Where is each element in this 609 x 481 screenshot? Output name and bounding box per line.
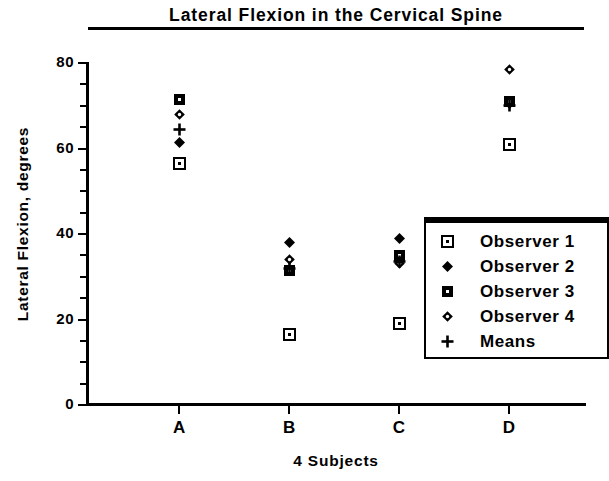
marker-glyph [441, 310, 454, 323]
marker-glyph [441, 260, 454, 273]
legend-item-label: Observer 1 [480, 232, 575, 252]
y-tick-minor [80, 276, 86, 278]
data-point [503, 63, 516, 76]
legend-item: Observer 2 [426, 254, 607, 279]
data-point [503, 99, 516, 112]
data-point [283, 262, 296, 275]
marker-glyph [441, 335, 454, 348]
data-point [283, 328, 296, 341]
data-point [173, 93, 186, 106]
y-tick-minor [80, 340, 86, 342]
legend-item: Observer 1 [426, 229, 607, 254]
legend-item: Means [426, 329, 607, 354]
y-tick-label: 20 [30, 310, 74, 327]
y-tick-minor [80, 190, 86, 192]
y-tick-minor [80, 83, 86, 85]
chart-title-block: Lateral Flexion in the Cervical Spine [88, 4, 584, 30]
marker-glyph [441, 285, 454, 298]
legend-marker-icon [438, 334, 458, 350]
y-tick-label: 40 [30, 224, 74, 241]
legend-item: Observer 4 [426, 304, 607, 329]
y-tick-minor [80, 297, 86, 299]
data-point [393, 317, 406, 330]
y-axis-line [86, 62, 89, 406]
legend-item: Observer 3 [426, 279, 607, 304]
chart-legend: Observer 1Observer 2Observer 3Observer 4… [424, 217, 609, 359]
y-tick-minor [80, 383, 86, 385]
legend-marker-icon [438, 284, 458, 300]
x-axis-label: 4 Subjects [86, 452, 586, 470]
legend-item-label: Means [480, 332, 536, 352]
y-tick-minor [80, 105, 86, 107]
page-title: Lateral Flexion in the Cervical Spine [88, 4, 584, 26]
y-tick-major [78, 62, 86, 64]
x-tick-label: D [489, 418, 529, 438]
legend-item-label: Observer 3 [480, 282, 575, 302]
data-point [173, 123, 186, 136]
y-tick-label: 80 [30, 53, 74, 70]
x-tick [288, 406, 290, 414]
y-tick-major [78, 404, 86, 406]
legend-marker-icon [438, 309, 458, 325]
data-point [173, 157, 186, 170]
x-axis-line [86, 403, 586, 406]
y-tick-minor [80, 126, 86, 128]
y-tick-minor [80, 254, 86, 256]
data-point [283, 236, 296, 249]
y-tick-minor [80, 212, 86, 214]
data-point [503, 138, 516, 151]
x-tick-label: C [379, 418, 419, 438]
y-tick-minor [80, 169, 86, 171]
data-point [173, 136, 186, 149]
data-point [393, 255, 406, 268]
x-tick-label: A [159, 418, 199, 438]
legend-marker-icon [438, 259, 458, 275]
title-underline [88, 27, 584, 30]
x-tick [178, 406, 180, 414]
x-tick [398, 406, 400, 414]
marker-glyph [441, 235, 454, 248]
legend-marker-icon [438, 234, 458, 250]
x-tick-label: B [269, 418, 309, 438]
legend-item-label: Observer 2 [480, 257, 575, 277]
data-point [393, 232, 406, 245]
y-tick-major [78, 319, 86, 321]
y-tick-minor [80, 361, 86, 363]
data-point [173, 108, 186, 121]
y-tick-major [78, 233, 86, 235]
y-tick-label: 0 [30, 395, 74, 412]
y-tick-label: 60 [30, 139, 74, 156]
y-tick-major [78, 148, 86, 150]
legend-item-label: Observer 4 [480, 307, 575, 327]
x-tick [508, 406, 510, 414]
